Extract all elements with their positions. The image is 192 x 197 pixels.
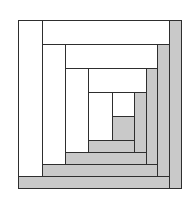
quilt-piece-round4-bottom <box>18 176 170 189</box>
quilt-piece-round3-top <box>65 44 158 69</box>
quilt-piece-round1-top <box>112 92 135 117</box>
quilt-piece-round2-left <box>65 68 89 153</box>
quilt-piece-round3-left <box>42 44 66 165</box>
quilt-piece-round4-top <box>42 20 170 45</box>
quilt-piece-round4-right <box>169 20 182 189</box>
quilt-piece-round1-left <box>88 92 113 141</box>
quilt-piece-round2-top <box>88 68 147 93</box>
log-cabin-quilt-block <box>0 0 192 197</box>
quilt-piece-center <box>112 116 135 141</box>
quilt-piece-round4-left <box>18 20 43 177</box>
